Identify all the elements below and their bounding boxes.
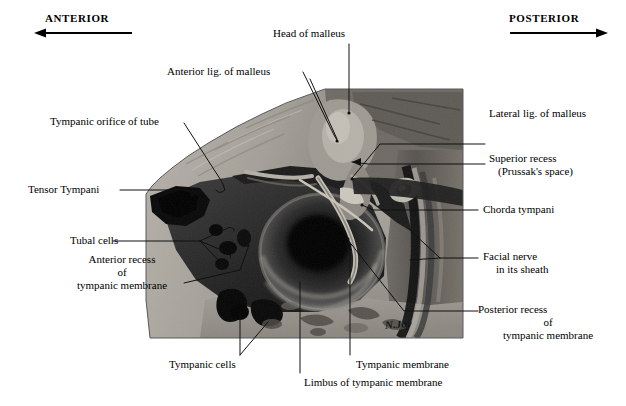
label-anterior-recess-line1: Anterior recess	[60, 253, 184, 266]
label-anterior-lig-of-malleus: Anterior lig. of malleus	[167, 65, 270, 78]
leader-lateral-lig	[352, 144, 485, 178]
label-posterior-recess-line1: Posterior recess	[478, 303, 618, 316]
label-superior-recess-line2: (Prussak's space)	[489, 165, 573, 178]
label-posterior-recess-line3: tympanic membrane	[478, 329, 618, 342]
label-tubal-cells: Tubal cells	[70, 234, 118, 247]
label-limbus-of-tympanic-membrane: Limbus of tympanic membrane	[304, 376, 442, 389]
arrow-right-icon	[508, 27, 608, 39]
leader-posterior-recess	[348, 240, 478, 311]
label-anterior-recess-line2: of	[60, 266, 184, 279]
label-tympanic-orifice-of-tube: Tympanic orifice of tube	[50, 115, 159, 128]
anterior-label: ANTERIOR	[45, 12, 109, 24]
label-tympanic-cells: Tympanic cells	[169, 358, 236, 371]
label-anterior-recess-of-tympanic-membrane: Anterior recess of tympanic membrane	[60, 253, 184, 292]
label-chorda-tympani: Chorda tympani	[483, 203, 554, 216]
label-superior-recess-line1: Superior recess	[489, 152, 573, 165]
label-anterior-recess-line3: tympanic membrane	[60, 279, 184, 292]
label-tensor-tympani: Tensor Tympani	[28, 183, 99, 196]
label-posterior-recess-of-tympanic-membrane: Posterior recess of tympanic membrane	[478, 303, 618, 342]
label-tympanic-membrane: Tympanic membrane	[356, 358, 449, 371]
label-facial-nerve-line2: in its sheath	[483, 263, 549, 276]
leader-superior-recess	[352, 162, 485, 164]
anatomical-figure: ANTERIOR POSTERIOR Head of malleus Anter…	[0, 0, 626, 406]
posterior-label: POSTERIOR	[509, 12, 579, 24]
label-superior-recess: Superior recess (Prussak's space)	[489, 152, 573, 178]
label-head-of-malleus: Head of malleus	[273, 27, 345, 40]
leader-tympanic-orifice	[184, 123, 225, 193]
label-facial-nerve: Facial nerve in its sheath	[483, 250, 549, 276]
label-lateral-lig-of-malleus: Lateral lig. of malleus	[489, 107, 586, 120]
label-posterior-recess-line2: of	[478, 316, 618, 329]
leader-anterior-recess	[184, 248, 248, 283]
artist-signature: N.Joy	[385, 317, 412, 331]
leader-anterior-lig	[303, 72, 338, 142]
label-facial-nerve-line1: Facial nerve	[483, 250, 549, 263]
leader-chorda-tympani	[362, 205, 478, 210]
leader-tensor-tympani	[120, 190, 192, 194]
arrow-left-icon	[34, 27, 134, 39]
